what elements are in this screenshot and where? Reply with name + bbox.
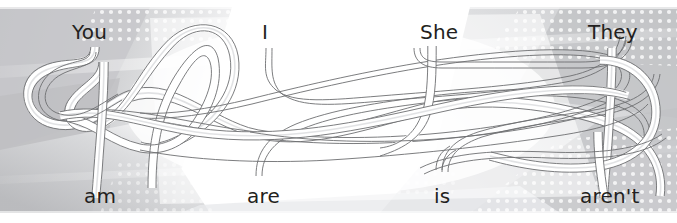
- bottom-label-arent[interactable]: aren't: [580, 186, 640, 206]
- bottom-label-am[interactable]: am: [84, 186, 116, 206]
- exercise-canvas: .rb-out { fill:none; stroke:#6d6e71; str…: [0, 0, 677, 223]
- ribbon-you-to-am: [24, 47, 665, 196]
- bottom-label-is[interactable]: is: [434, 186, 450, 206]
- top-label-you[interactable]: You: [72, 22, 107, 42]
- top-label-i[interactable]: I: [262, 22, 268, 42]
- top-label-she[interactable]: She: [420, 22, 458, 42]
- top-label-they[interactable]: They: [588, 22, 638, 42]
- bottom-label-are[interactable]: are: [247, 186, 280, 206]
